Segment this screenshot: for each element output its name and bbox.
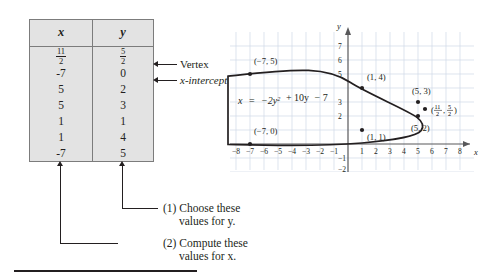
point-1-4	[360, 86, 364, 90]
x-column-arrow-elbow	[60, 243, 118, 244]
values-table: x y 11 2 5 2	[29, 19, 154, 162]
x-tick--6: −6	[260, 147, 268, 156]
point-1-1	[360, 128, 364, 132]
equation-term-a: −2y	[261, 95, 278, 106]
table-row: -7 5	[30, 145, 154, 162]
equation-text: x = −2y2 + 10y − 7	[237, 92, 328, 107]
point-label-1-4: (1, 4)	[367, 72, 386, 82]
cell-y-6: 5	[93, 145, 154, 162]
table-row: 1 1	[30, 113, 154, 129]
fraction-numerator: 11	[56, 47, 66, 56]
x-tick-5: 5	[416, 147, 420, 156]
x-intercept-callout-label: x-intercept	[180, 74, 227, 86]
y-axis-label: y	[336, 21, 341, 31]
equation-term-b: + 10y	[286, 92, 309, 103]
note-compute-values-for-x: (2) Compute these values for x.	[163, 237, 248, 263]
y-tick--1: −1	[338, 154, 346, 163]
point--7-5	[248, 72, 252, 76]
vertex-den-2: 2	[448, 110, 451, 117]
x-tick--8: −8	[232, 147, 240, 156]
vertex-num-1: 11	[435, 103, 441, 110]
vertex-callout-arrowhead-icon	[153, 61, 158, 67]
x-intercept-callout-line	[157, 80, 177, 81]
x-tick--3: −3	[302, 147, 310, 156]
x-tick--5: −5	[274, 147, 282, 156]
point--7-0	[248, 142, 252, 146]
x-tick-2: 2	[374, 147, 378, 156]
cell-y-3: 3	[93, 97, 154, 113]
bottom-divider	[14, 270, 197, 272]
vertex-label-close-paren: )	[454, 105, 457, 115]
values-table-wrapper: x y 11 2 5 2	[29, 19, 154, 158]
figure-container: x y 11 2 5 2	[0, 0, 501, 279]
x-axis-label: x	[473, 147, 478, 157]
note-2-line-1: (2) Compute these	[163, 237, 248, 250]
cell-y-0: 5 2	[93, 47, 154, 66]
table-row: 5 3	[30, 97, 154, 113]
x-tick-3: 3	[388, 147, 392, 156]
point-5-2	[416, 114, 420, 118]
fraction-numerator: 5	[120, 47, 126, 56]
y-tick-6: 6	[338, 56, 342, 65]
table-head: x y	[30, 20, 154, 47]
x-tick--2: −2	[316, 147, 324, 156]
x-tick-1: 1	[360, 147, 364, 156]
note-1-line-2: values for y.	[163, 215, 240, 228]
x-tick-4: 4	[402, 147, 406, 156]
table-header-row: x y	[30, 20, 154, 47]
vertex-label-comma: ,	[443, 105, 445, 115]
x-tick-7: 7	[444, 147, 448, 156]
equation-lhs: x	[237, 95, 243, 106]
vertex-num-2: 5	[448, 103, 451, 110]
cell-x-5: 1	[30, 129, 93, 145]
cell-x-6: -7	[30, 145, 93, 162]
y-tick-7: 7	[338, 42, 342, 51]
point-label--7-0: (−7, 0)	[254, 126, 278, 136]
column-header-x: x	[30, 20, 93, 47]
vertex-callout-label: Vertex	[180, 58, 209, 70]
point-label-1-1: (1, 1)	[367, 132, 386, 142]
cell-y-4: 1	[93, 113, 154, 129]
y-tick--2: −2	[338, 165, 346, 172]
table-body: 11 2 5 2 -7 0 5	[30, 47, 154, 162]
x-column-arrow-stem	[60, 166, 61, 244]
fraction-denominator: 2	[120, 56, 126, 66]
fraction-11-over-2: 11 2	[56, 47, 66, 65]
equation-equals: =	[249, 95, 255, 106]
table-row: 1 4	[30, 129, 154, 145]
point-5-3	[416, 100, 420, 104]
y-column-arrow-elbow	[122, 208, 158, 209]
y-tick-3: 3	[338, 98, 342, 107]
x-tick-8: 8	[458, 147, 462, 156]
cell-y-2: 2	[93, 81, 154, 97]
point-label--7-5: (−7, 5)	[254, 56, 278, 66]
table-row: 11 2 5 2	[30, 47, 154, 66]
graph-svg: x y −8 −7 −6 −5 −4 −3 −2 −1 1 2 3 4 5 6 …	[222, 14, 494, 172]
cell-y-5: 4	[93, 129, 154, 145]
x-tick-6: 6	[430, 147, 434, 156]
x-tick-labels: −8 −7 −6 −5 −4 −3 −2 −1 1 2 3 4 5 6 7 8	[232, 147, 462, 156]
note-1-line-1: (1) Choose these	[163, 202, 240, 215]
y-column-arrow-stem	[122, 166, 123, 209]
cell-x-4: 1	[30, 113, 93, 129]
point-label-5-3: (5, 3)	[412, 86, 431, 96]
cell-y-1: 0	[93, 65, 154, 81]
y-tick-labels: 7 6 5 3 2 −1 −2	[338, 42, 346, 172]
x-tick--7: −7	[246, 147, 254, 156]
cell-x-2: 5	[30, 81, 93, 97]
x-intercept-callout-arrowhead-icon	[153, 77, 158, 83]
note-2-line-2: values for x.	[163, 250, 248, 263]
y-tick-2: 2	[338, 112, 342, 121]
column-header-y: y	[93, 20, 154, 47]
y-axis-arrowhead-icon	[345, 27, 351, 35]
cell-x-1: -7	[30, 65, 93, 81]
x-axis-arrowhead-icon	[463, 141, 470, 147]
fraction-5-over-2: 5 2	[120, 47, 126, 65]
note-choose-values-for-y: (1) Choose these values for y.	[163, 202, 240, 228]
table-row: -7 0	[30, 65, 154, 81]
point-label-5-2: (5, 2)	[411, 123, 430, 133]
point-label-vertex-fraction: ( 11 2 , 5 2 )	[431, 103, 457, 117]
vertex-callout-line	[157, 64, 177, 65]
x-tick--4: −4	[288, 147, 296, 156]
fraction-denominator: 2	[56, 56, 66, 66]
